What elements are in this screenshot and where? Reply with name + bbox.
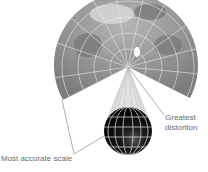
greatest-distortion-line2: distortion <box>165 123 197 133</box>
greatest-distortion-label: Greatest distortion <box>165 113 197 133</box>
globe <box>100 107 156 155</box>
most-accurate-scale-label: Most accurate scale <box>1 154 72 164</box>
conic-projection-diagram <box>0 0 208 172</box>
greatest-distortion-line1: Greatest <box>165 113 197 123</box>
